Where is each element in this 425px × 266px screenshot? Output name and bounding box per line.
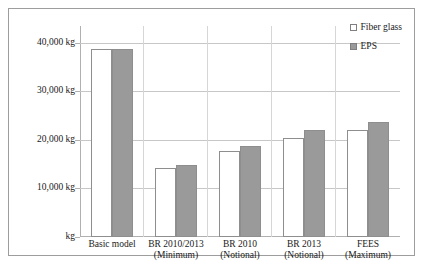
x-axis-label-line2: (Notional)	[208, 250, 272, 261]
bar-fiber-glass	[347, 130, 368, 237]
legend-item-label: EPS	[361, 42, 377, 52]
y-axis-tick-label: 30,000 kg	[37, 87, 75, 97]
x-axis-label-line1: FEES	[357, 239, 379, 249]
bar-eps	[112, 49, 133, 237]
x-axis-label-group: Basic modelBR 2010/2013(Minimum)BR 2010(…	[80, 239, 400, 261]
y-axis-tick-label: 40,000 kg	[37, 38, 75, 48]
bar-group	[272, 26, 336, 237]
x-axis-label-line1: Basic model	[88, 239, 135, 249]
x-axis-label-line2: (Maximum)	[336, 250, 400, 261]
chart-frame: 40,000 kg30,000 kg20,000 kg10,000 kgkg B…	[8, 8, 415, 256]
legend-item-label: Fiber glass	[361, 23, 402, 33]
legend-swatch-eps-icon	[350, 43, 357, 50]
x-axis-label-line1: BR 2010	[223, 239, 257, 249]
y-axis-tick	[75, 140, 80, 141]
bar-eps	[368, 122, 389, 237]
y-axis-tick	[75, 91, 80, 92]
bar-eps	[304, 130, 325, 237]
bar-group	[144, 26, 208, 237]
y-axis-tick	[75, 237, 80, 238]
y-axis-label-group: 40,000 kg30,000 kg20,000 kg10,000 kgkg	[17, 26, 75, 237]
chart-legend: Fiber glassEPS	[350, 23, 402, 60]
bar-group	[208, 26, 272, 237]
x-axis-label-line2: (Minimum)	[144, 250, 208, 261]
x-axis-category-label: Basic model	[80, 239, 144, 261]
bar-fiber-glass	[155, 168, 176, 237]
bar-eps	[240, 146, 261, 237]
x-axis-category-label: FEES(Maximum)	[336, 239, 400, 261]
bar-fiber-glass	[219, 151, 240, 237]
y-axis-tick	[75, 188, 80, 189]
legend-item: EPS	[350, 42, 402, 52]
x-axis-label-line1: BR 2013	[287, 239, 321, 249]
x-axis-label-line2: (Notional)	[272, 250, 336, 261]
x-axis-category-label: BR 2010/2013(Minimum)	[144, 239, 208, 261]
y-axis-tick	[75, 43, 80, 44]
bar-eps	[176, 165, 197, 237]
y-axis-tick-label: 10,000 kg	[37, 184, 75, 194]
legend-item: Fiber glass	[350, 23, 402, 33]
y-axis-tick-label: 20,000 kg	[37, 135, 75, 145]
bar-fiber-glass	[283, 138, 304, 237]
bar-fiber-glass	[91, 49, 112, 237]
legend-swatch-fiber-icon	[350, 24, 357, 31]
x-axis-category-label: BR 2010(Notional)	[208, 239, 272, 261]
y-axis-tick-label: kg	[66, 232, 76, 242]
bar-group	[80, 26, 144, 237]
x-axis-category-label: BR 2013(Notional)	[272, 239, 336, 261]
x-axis-label-line1: BR 2010/2013	[148, 239, 204, 249]
